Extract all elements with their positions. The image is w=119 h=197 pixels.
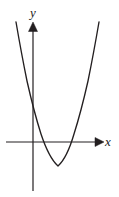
coordinate-plane-svg — [0, 0, 119, 197]
x-axis-label: x — [105, 135, 111, 148]
y-axis-label: y — [30, 6, 36, 19]
graph-figure: y x — [0, 0, 119, 197]
